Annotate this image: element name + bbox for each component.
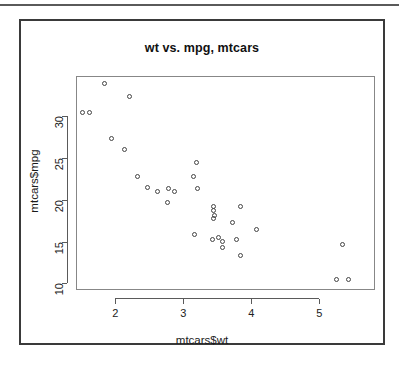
y-axis-tick-label: 10 xyxy=(53,283,65,295)
x-axis-tick xyxy=(319,299,320,304)
data-point xyxy=(109,136,114,141)
data-point xyxy=(102,81,107,86)
data-point xyxy=(220,245,225,250)
x-axis-line xyxy=(115,298,319,299)
x-axis-tick-label: 3 xyxy=(180,307,186,319)
data-point xyxy=(340,242,345,247)
x-axis-label: mtcars$wt xyxy=(21,334,383,346)
y-axis-tick-label: 25 xyxy=(53,158,65,170)
data-point xyxy=(191,174,196,179)
panel-border xyxy=(76,76,375,290)
top-horizontal-rule xyxy=(0,4,399,6)
plot-panel xyxy=(76,76,375,290)
data-point xyxy=(254,227,259,232)
x-axis-tick-label: 4 xyxy=(248,307,254,319)
y-axis-tick-label: 30 xyxy=(53,116,65,128)
x-axis-tick-label: 5 xyxy=(316,307,322,319)
x-axis-tick xyxy=(251,299,252,304)
y-axis-tick-label: 20 xyxy=(53,200,65,212)
data-point xyxy=(166,186,171,191)
data-point xyxy=(211,216,216,221)
data-point xyxy=(155,189,160,194)
y-axis-line xyxy=(67,116,68,283)
data-point xyxy=(220,239,225,244)
chart-title: wt vs. mpg, mtcars xyxy=(21,41,383,55)
data-point xyxy=(135,174,140,179)
x-axis-tick-label: 2 xyxy=(112,307,118,319)
y-axis-label: mtcars$mpg xyxy=(28,146,40,216)
figure-frame: wt vs. mpg, mtcars 1015202530 2345 mtcar… xyxy=(19,19,385,345)
data-point xyxy=(165,200,170,205)
y-axis-tick-label: 15 xyxy=(53,242,65,254)
data-point xyxy=(127,94,132,99)
x-axis-tick xyxy=(115,299,116,304)
data-point xyxy=(211,204,216,209)
data-point xyxy=(145,185,150,190)
x-axis-tick xyxy=(183,299,184,304)
